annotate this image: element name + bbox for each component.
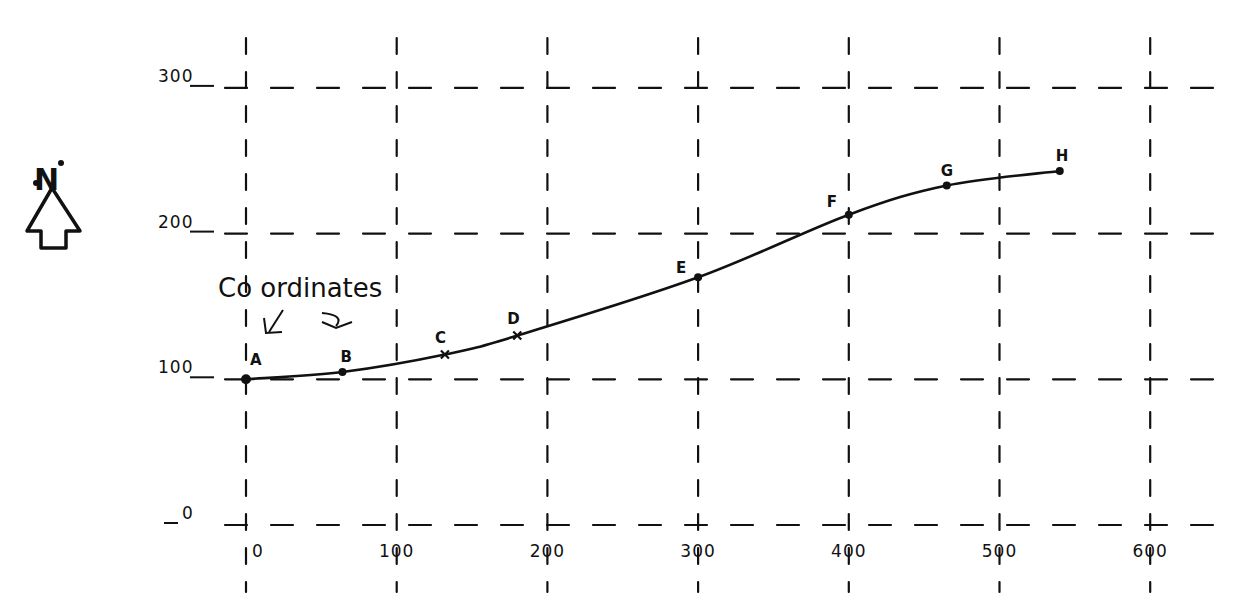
annotation-text: Co ordinates bbox=[218, 273, 382, 303]
point-label: E bbox=[676, 259, 686, 277]
x-tick-label: 400 bbox=[831, 541, 866, 561]
y-tick-label: 0 bbox=[182, 503, 194, 523]
point-label: G bbox=[941, 162, 953, 180]
traverse-points: ABCDEFGH bbox=[241, 147, 1068, 384]
x-tick-label: 300 bbox=[680, 541, 715, 561]
y-tick-label: 300 bbox=[158, 66, 193, 86]
point-e: E bbox=[676, 259, 702, 281]
point-label: H bbox=[1056, 147, 1069, 165]
point-label: B bbox=[340, 348, 351, 366]
dashed-grid bbox=[225, 38, 1225, 592]
x-tick-label: 0 bbox=[252, 541, 264, 561]
point-label: A bbox=[250, 351, 262, 369]
arrow-down-icon bbox=[322, 313, 352, 328]
point-label: D bbox=[507, 310, 519, 328]
x-tick-label: 100 bbox=[379, 541, 414, 561]
coordinates-annotation: Co ordinates bbox=[218, 273, 382, 333]
x-tick-label: 500 bbox=[982, 541, 1017, 561]
arrow-down-left-icon bbox=[264, 310, 283, 333]
y-axis-labels: 0100200300 bbox=[158, 66, 214, 523]
north-arrow-icon: N bbox=[27, 160, 80, 248]
y-tick-label: 200 bbox=[158, 212, 193, 232]
x-axis-labels: 0100200300400500600 bbox=[252, 541, 1168, 561]
point-label: C bbox=[435, 329, 446, 347]
x-tick-label: 200 bbox=[530, 541, 565, 561]
point-h: H bbox=[1056, 147, 1069, 175]
point-f: F bbox=[827, 193, 853, 219]
x-tick-label: 600 bbox=[1132, 541, 1167, 561]
y-tick-label: 100 bbox=[158, 357, 193, 377]
point-d: D bbox=[507, 310, 521, 340]
point-label: F bbox=[827, 193, 837, 211]
coordinate-diagram: 0100200300 0100200300400500600 N Co ordi… bbox=[0, 0, 1238, 603]
